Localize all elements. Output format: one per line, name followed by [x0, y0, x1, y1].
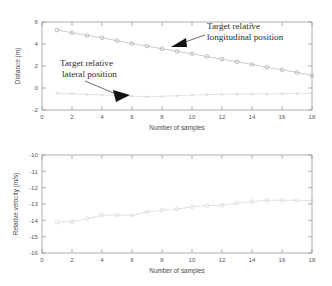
x-axis-title-bottom: Number of samples [149, 267, 204, 275]
x-ticklabel-top-8: 16 [279, 113, 286, 120]
series-relative-velocity [55, 198, 314, 224]
y-ticklabel-top-4: -2 [32, 106, 38, 113]
x-axis-title-top: Number of samples [149, 124, 204, 132]
chart-panel-velocity: -10 -11 -12 -13 -14 -15 -16 [0, 143, 332, 286]
x-ticklabel-bottom-2: 4 [100, 256, 104, 263]
x-ticklabel-top-0: 0 [40, 113, 44, 120]
x-ticklabel-bottom-7: 14 [249, 256, 256, 263]
x-ticklabel-bottom-3: 6 [130, 256, 134, 263]
x-ticklabel-top-1: 2 [70, 113, 74, 120]
x-ticklabel-bottom-0: 0 [40, 256, 44, 263]
annotation-longitudinal-line2: longitudinal position [207, 32, 284, 42]
figure-container: 6 4 2 0 -2 [0, 0, 332, 286]
annotation-longitudinal-line1: Target relative [207, 21, 260, 31]
annotation-longitudinal-leader [185, 35, 205, 42]
annotation-lateral-line1: Target relative [60, 58, 113, 68]
series-path [57, 200, 312, 222]
x-ticklabel-top-3: 6 [130, 113, 134, 120]
y-ticklabel-bottom-6: -16 [29, 249, 39, 256]
y-ticklabel-bottom-1: -11 [30, 168, 39, 175]
annotation-lateral-arrowhead [113, 90, 130, 102]
x-axis-ticklabels-top: 0 2 4 6 8 10 12 14 16 18 [40, 113, 316, 120]
y-axis-ticklabels-bottom: -10 -11 -12 -13 -14 -15 -16 [29, 151, 39, 256]
velocity-chart-svg: -10 -11 -12 -13 -14 -15 -16 [0, 143, 332, 286]
y-ticklabel-top-0: 6 [35, 18, 39, 25]
chart-panel-distance: 6 4 2 0 -2 [0, 0, 332, 143]
x-ticklabel-top-4: 8 [160, 113, 164, 120]
x-ticklabel-bottom-9: 18 [309, 256, 316, 263]
series-lateral-position [56, 92, 313, 98]
x-ticklabel-bottom-8: 16 [279, 256, 286, 263]
x-axis-ticklabels-bottom: 0 2 4 6 8 10 12 14 16 18 [40, 256, 316, 263]
y-ticklabel-bottom-2: -12 [29, 184, 39, 191]
y-ticklabel-bottom-5: -15 [29, 233, 39, 240]
y-axis-ticks-bottom [42, 155, 312, 253]
annotation-lateral-leader [85, 81, 116, 94]
x-ticklabel-top-9: 18 [309, 113, 316, 120]
y-ticklabel-bottom-4: -14 [29, 217, 39, 224]
plot-frame-bottom [42, 155, 312, 253]
x-ticklabel-top-5: 10 [189, 113, 196, 120]
annotation-longitudinal: Target relative longitudinal position [171, 21, 284, 47]
y-axis-ticklabels-top: 6 4 2 0 -2 [32, 18, 38, 113]
y-axis-title-bottom: Relative velocity (m/s) [12, 173, 20, 236]
y-ticklabel-top-1: 4 [35, 40, 39, 47]
y-axis-title-top: Distance (m) [14, 48, 22, 84]
annotation-lateral-line2: lateral position [62, 69, 117, 79]
x-ticklabel-bottom-5: 10 [189, 256, 196, 263]
x-ticklabel-bottom-1: 2 [70, 256, 74, 263]
y-ticklabel-top-3: 0 [35, 84, 39, 91]
y-ticklabel-bottom-3: -13 [29, 200, 39, 207]
distance-chart-svg: 6 4 2 0 -2 [0, 0, 332, 143]
series-path [57, 93, 312, 96]
y-ticklabel-bottom-0: -10 [29, 151, 39, 158]
x-ticklabel-bottom-6: 12 [219, 256, 226, 263]
x-ticklabel-top-7: 14 [249, 113, 256, 120]
annotation-longitudinal-arrowhead [171, 38, 187, 47]
y-ticklabel-top-2: 2 [35, 62, 39, 69]
x-ticklabel-top-2: 4 [100, 113, 104, 120]
x-ticklabel-top-6: 12 [219, 113, 226, 120]
annotation-lateral: Target relative lateral position [60, 58, 130, 102]
x-axis-ticks-bottom [42, 155, 312, 253]
x-ticklabel-bottom-4: 8 [160, 256, 164, 263]
